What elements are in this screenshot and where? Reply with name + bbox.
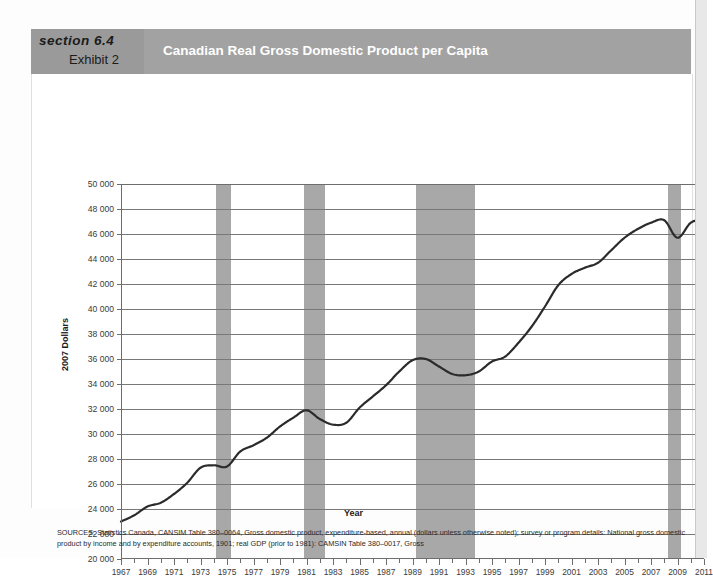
exhibit-title: Canadian Real Gross Domestic Product per… bbox=[163, 43, 488, 58]
x-tick-mark-major bbox=[545, 559, 546, 565]
y-tick-label: 42 000 bbox=[88, 279, 114, 289]
x-tick-mark-major bbox=[174, 559, 175, 565]
x-tick-mark-major bbox=[280, 559, 281, 565]
x-tick-label: 1999 bbox=[536, 567, 555, 577]
x-tick-label: 1985 bbox=[350, 567, 369, 577]
x-tick-mark-minor bbox=[505, 559, 506, 563]
page-edge-shadow bbox=[696, 0, 707, 558]
x-tick-label: 2001 bbox=[562, 567, 581, 577]
x-tick-mark-major bbox=[572, 559, 573, 565]
x-tick-mark-major bbox=[201, 559, 202, 565]
x-tick-mark-minor bbox=[373, 559, 374, 563]
x-tick-mark-major bbox=[413, 559, 414, 565]
exhibit-header-band: section 6.4 Exhibit 2 Canadian Real Gros… bbox=[31, 29, 691, 74]
x-tick-mark-major bbox=[519, 559, 520, 565]
x-tick-label: 2003 bbox=[589, 567, 608, 577]
section-number-label: section 6.4 bbox=[39, 33, 114, 48]
gdp-line-series bbox=[121, 184, 704, 559]
x-tick-mark-minor bbox=[240, 559, 241, 563]
y-tick-label: 36 000 bbox=[88, 354, 114, 364]
x-tick-mark-major bbox=[148, 559, 149, 565]
x-tick-mark-major bbox=[466, 559, 467, 565]
x-tick-label: 1967 bbox=[112, 567, 131, 577]
x-tick-mark-major bbox=[492, 559, 493, 565]
y-tick-label: 50 000 bbox=[88, 179, 114, 189]
x-tick-mark-major bbox=[227, 559, 228, 565]
x-tick-label: 2007 bbox=[642, 567, 661, 577]
x-tick-mark-minor bbox=[426, 559, 427, 563]
y-tick-label: 26 000 bbox=[88, 479, 114, 489]
x-tick-mark-major bbox=[121, 559, 122, 565]
x-tick-mark-minor bbox=[638, 559, 639, 563]
y-tick-label: 40 000 bbox=[88, 304, 114, 314]
x-tick-mark-minor bbox=[161, 559, 162, 563]
y-tick-label: 46 000 bbox=[88, 229, 114, 239]
x-tick-mark-major bbox=[333, 559, 334, 565]
x-tick-mark-major bbox=[307, 559, 308, 565]
x-tick-label: 1973 bbox=[191, 567, 210, 577]
x-tick-label: 2005 bbox=[615, 567, 634, 577]
y-tick-label: 34 000 bbox=[88, 379, 114, 389]
x-axis-title: Year bbox=[0, 508, 707, 518]
x-tick-label: 2011 bbox=[695, 567, 713, 577]
x-tick-mark-major bbox=[598, 559, 599, 565]
x-tick-mark-minor bbox=[532, 559, 533, 563]
x-tick-mark-major bbox=[651, 559, 652, 565]
y-tick-label: 38 000 bbox=[88, 329, 114, 339]
y-axis-title: 2007 Dollars bbox=[60, 318, 70, 371]
x-tick-mark-minor bbox=[187, 559, 188, 563]
x-tick-label: 1969 bbox=[138, 567, 157, 577]
x-tick-label: 1977 bbox=[244, 567, 263, 577]
x-tick-label: 1971 bbox=[165, 567, 184, 577]
x-tick-mark-major bbox=[678, 559, 679, 565]
y-tick-label: 44 000 bbox=[88, 254, 114, 264]
x-tick-label: 2009 bbox=[668, 567, 687, 577]
x-tick-label: 1981 bbox=[297, 567, 316, 577]
y-tick-label: 28 000 bbox=[88, 454, 114, 464]
x-tick-mark-minor bbox=[267, 559, 268, 563]
x-tick-label: 1975 bbox=[218, 567, 237, 577]
exhibit-number-label: Exhibit 2 bbox=[69, 52, 119, 67]
x-tick-mark-major bbox=[704, 559, 705, 565]
x-tick-mark-major bbox=[360, 559, 361, 565]
y-tick-label: 48 000 bbox=[88, 204, 114, 214]
x-tick-mark-minor bbox=[293, 559, 294, 563]
x-tick-mark-minor bbox=[134, 559, 135, 563]
x-tick-mark-minor bbox=[452, 559, 453, 563]
x-tick-mark-major bbox=[254, 559, 255, 565]
plot-area bbox=[121, 184, 704, 559]
x-tick-mark-minor bbox=[691, 559, 692, 563]
x-tick-label: 1979 bbox=[271, 567, 290, 577]
x-tick-label: 1993 bbox=[456, 567, 475, 577]
x-tick-mark-major bbox=[625, 559, 626, 565]
x-tick-mark-major bbox=[439, 559, 440, 565]
x-tick-label: 1989 bbox=[403, 567, 422, 577]
chart-container: 2007 Dollars 20 00022 00024 00026 00028 … bbox=[31, 74, 693, 508]
x-tick-mark-minor bbox=[611, 559, 612, 563]
x-tick-label: 1983 bbox=[324, 567, 343, 577]
x-tick-label: 1987 bbox=[377, 567, 396, 577]
x-tick-mark-minor bbox=[346, 559, 347, 563]
x-tick-mark-minor bbox=[320, 559, 321, 563]
y-tick-label: 32 000 bbox=[88, 404, 114, 414]
x-tick-mark-minor bbox=[399, 559, 400, 563]
x-tick-mark-minor bbox=[585, 559, 586, 563]
x-tick-label: 1995 bbox=[483, 567, 502, 577]
x-tick-mark-minor bbox=[558, 559, 559, 563]
y-tick-label: 30 000 bbox=[88, 429, 114, 439]
sources-note: SOURCES: Statistics Canada, CANSIM Table… bbox=[57, 528, 691, 549]
x-tick-label: 1991 bbox=[430, 567, 449, 577]
y-tick-label: 20 000 bbox=[88, 554, 114, 564]
x-tick-label: 1997 bbox=[509, 567, 528, 577]
x-tick-mark-major bbox=[386, 559, 387, 565]
x-tick-mark-minor bbox=[664, 559, 665, 563]
x-tick-mark-minor bbox=[214, 559, 215, 563]
x-tick-mark-minor bbox=[479, 559, 480, 563]
